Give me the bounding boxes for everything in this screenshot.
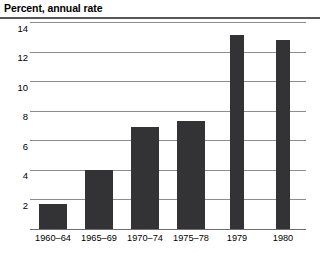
- chart-figure: Percent, annual rate 24681012141960–6419…: [0, 0, 320, 253]
- x-axis-tick-label: 1980: [253, 233, 313, 244]
- y-axis-tick-label: 4: [6, 171, 28, 181]
- y-axis-tick-label: 10: [6, 83, 28, 93]
- gridline: [30, 140, 306, 141]
- bar: [276, 40, 290, 229]
- bar: [131, 127, 159, 229]
- bar: [39, 204, 67, 229]
- gridline: [30, 22, 306, 23]
- y-axis-tick-label: 6: [6, 142, 28, 152]
- bar: [85, 170, 113, 229]
- bar: [177, 121, 205, 229]
- gridline: [30, 170, 306, 171]
- plot-area: 24681012141960–641965–691970–741975–7819…: [0, 0, 320, 253]
- gridline: [30, 199, 306, 200]
- y-axis-tick-label: 2: [6, 201, 28, 211]
- y-axis-tick-label: 12: [6, 53, 28, 63]
- y-axis-tick-label: 14: [6, 24, 28, 34]
- gridline: [30, 52, 306, 53]
- bar: [230, 35, 244, 229]
- gridline: [30, 111, 306, 112]
- gridline: [30, 81, 306, 82]
- axis-baseline: [30, 229, 306, 230]
- y-axis-tick-label: 8: [6, 112, 28, 122]
